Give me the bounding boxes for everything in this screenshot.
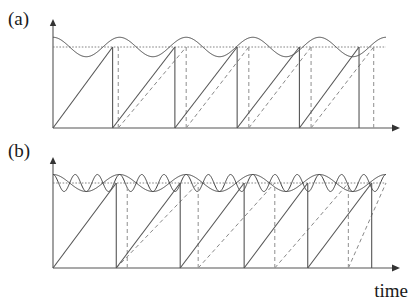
y-axis-arrowhead-b xyxy=(50,157,56,164)
x-axis-arrowhead-b xyxy=(392,265,400,272)
panel-b xyxy=(50,157,400,271)
y-axis-arrowhead-a xyxy=(50,19,56,26)
solid-ramp-b-3 xyxy=(244,183,308,268)
figure-canvas: (a) (b) time xyxy=(0,0,414,303)
x-axis-arrowhead-a xyxy=(392,125,400,132)
dashed-ramp-b-1 xyxy=(198,183,275,268)
panel-a xyxy=(50,19,400,131)
plot-svg xyxy=(0,0,414,303)
solid-ramp-a-3 xyxy=(237,47,299,128)
dashed-ramp-a-2 xyxy=(249,47,311,128)
dashed-ramp-a-0 xyxy=(118,47,186,128)
dashed-ramp-b-3 xyxy=(348,183,386,268)
dashed-ramp-a-3 xyxy=(311,47,374,128)
solid-ramp-a-2 xyxy=(175,47,237,128)
solid-ramp-b-2 xyxy=(180,183,244,268)
solid-ramp-b-1 xyxy=(116,183,180,268)
dashed-ramp-b-2 xyxy=(275,183,349,268)
dashed-ramp-a-1 xyxy=(186,47,249,128)
solid-ramp-a-4 xyxy=(299,47,359,128)
solid-ramp-a-0 xyxy=(53,47,113,128)
solid-ramp-b-4 xyxy=(308,183,372,268)
dashed-ramp-b-0 xyxy=(116,183,198,268)
solid-ramp-a-1 xyxy=(113,47,175,128)
solid-ramp-b-0 xyxy=(53,183,116,268)
